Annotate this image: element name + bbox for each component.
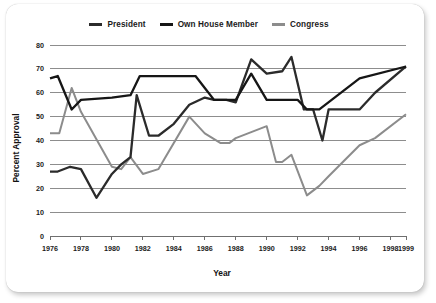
chart-x-tick-labels: 1976197819801982198419861988199019921994…: [42, 244, 414, 253]
y-axis-label: Percent Approval: [11, 113, 21, 182]
x-tick-label: 1988: [228, 244, 244, 253]
chart-y-tick-labels: 01020304050607080: [36, 41, 44, 241]
y-tick-label: 10: [36, 208, 44, 217]
chart-gridlines: [50, 45, 406, 236]
chart-container: President Own House Member Congress 0102…: [0, 0, 418, 288]
series-line-president: [50, 57, 406, 198]
y-tick-label: 40: [36, 136, 44, 145]
y-tick-label: 50: [36, 112, 44, 121]
x-tick-label: 1976: [42, 244, 58, 253]
x-tick-label: 1994: [321, 244, 337, 253]
x-tick-label: 1986: [197, 244, 213, 253]
x-tick-label: 1980: [104, 244, 120, 253]
y-tick-label: 0: [40, 232, 44, 241]
x-axis-label: Year: [213, 268, 231, 278]
chart-page: President Own House Member Congress 0102…: [0, 0, 436, 303]
x-tick-label: 1996: [352, 244, 368, 253]
x-tick-label: 1999: [398, 244, 414, 253]
y-tick-label: 60: [36, 88, 44, 97]
chart-x-ticks: [50, 236, 406, 240]
x-tick-label: 1982: [135, 244, 151, 253]
line-chart-svg: 01020304050607080 1976197819801982198419…: [0, 0, 418, 288]
y-tick-label: 80: [36, 41, 44, 50]
y-tick-label: 20: [36, 184, 44, 193]
x-tick-label: 1992: [290, 244, 306, 253]
chart-series: [50, 57, 406, 198]
y-tick-label: 70: [36, 64, 44, 73]
y-tick-label: 30: [36, 160, 44, 169]
x-tick-label: 1998: [383, 244, 399, 253]
x-tick-label: 1978: [73, 244, 89, 253]
x-tick-label: 1984: [166, 244, 182, 253]
series-line-congress: [50, 88, 406, 195]
series-line-own-house-member: [50, 66, 406, 109]
x-tick-label: 1990: [259, 244, 275, 253]
